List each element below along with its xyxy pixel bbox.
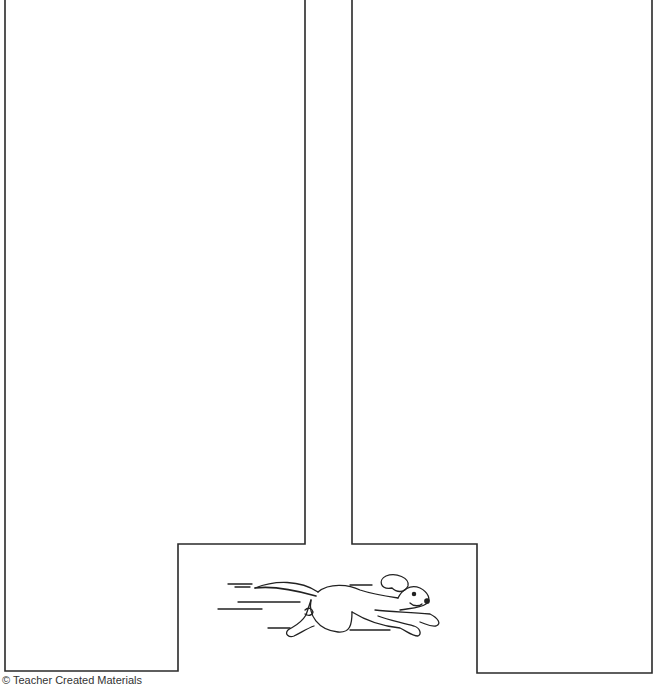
left-column-border xyxy=(5,0,305,671)
copyright-footer: © Teacher Created Materials xyxy=(2,674,142,686)
running-dog-icon xyxy=(218,575,439,637)
right-column-border xyxy=(352,0,652,673)
